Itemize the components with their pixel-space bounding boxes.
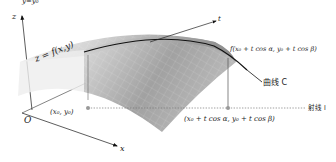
curve-c-pointer [247,70,262,82]
directional-derivative-diagram: y=y₀ z t z = f(x,y) 射线 l x O (x₀, y₀) (x… [0,0,336,162]
curve-label-text: 曲线 C [263,77,288,87]
x-axis [22,113,117,146]
moved-point [226,106,230,110]
curve-label: 曲线 C [263,77,288,87]
point-on-curve-label: f(x₀ + t cos α, y₀ + t cos β) [229,45,317,53]
tangent-label: t [218,15,221,23]
origin-label: O [24,115,32,125]
base-point-label: (x₀, y₀) [50,108,74,116]
ray-label: 射线 l [308,103,326,112]
x-axis-label: x [120,144,125,153]
moved-point-label: (x₀ + t cos α, y₀ + t cos β) [184,115,275,123]
z-axis-label: z [11,12,17,21]
base-point [86,106,90,110]
clipped-top-label: y=y₀ [21,0,39,5]
